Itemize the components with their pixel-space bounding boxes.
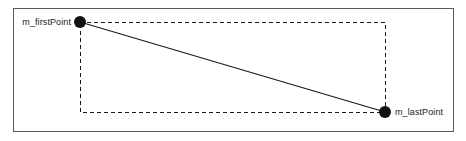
first-point-label: m_firstPoint [22,17,71,28]
first-point-marker [74,16,86,28]
last-point-label: m_lastPoint [395,107,443,118]
last-point-marker [379,106,391,118]
figure-root: m_firstPoint m_lastPoint [0,0,466,141]
diagonal-segment [80,22,385,112]
